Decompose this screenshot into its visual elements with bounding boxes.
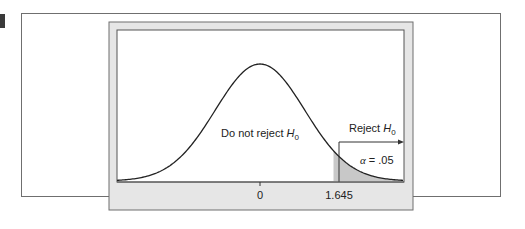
hypothesis-test-diagram: Do not reject H0 Reject H0 α = .05 0 1.6… [0,0,525,229]
tick-label-critical: 1.645 [325,189,353,201]
alpha-label: α = .05 [360,154,394,166]
tick-label-zero: 0 [257,189,263,201]
